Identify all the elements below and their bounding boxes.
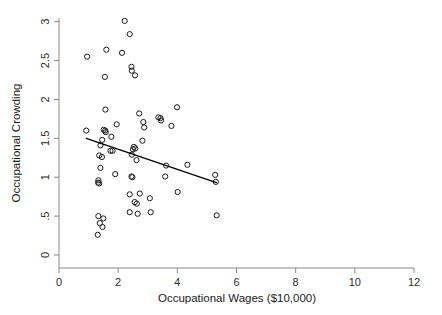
y-tick-label: 2.5 (39, 53, 51, 68)
data-point (214, 213, 219, 218)
x-tick-label: 0 (56, 276, 62, 288)
data-point (109, 134, 114, 139)
x-axis-title: Occupational Wages ($10,000) (158, 292, 316, 304)
y-tick-label: 1.5 (39, 131, 51, 146)
x-axis-tick-labels: 024681012 (56, 276, 420, 288)
y-tick-label: 1 (39, 174, 51, 180)
data-point (114, 122, 119, 127)
data-point (174, 105, 179, 110)
x-tick-label: 12 (408, 276, 420, 288)
data-point (137, 191, 142, 196)
data-point (132, 73, 137, 78)
y-tick-label: 3 (39, 19, 51, 25)
data-point (101, 216, 106, 221)
data-point (148, 210, 153, 215)
data-point (127, 32, 132, 37)
regression-fit-line (86, 138, 216, 182)
data-point (185, 162, 190, 167)
data-point (102, 74, 107, 79)
data-point (134, 158, 139, 163)
data-point (85, 54, 90, 59)
data-point (175, 189, 180, 194)
data-point (137, 111, 142, 116)
data-point (84, 128, 89, 133)
data-point (119, 50, 124, 55)
data-point (142, 125, 147, 130)
data-point (169, 123, 174, 128)
data-point (163, 174, 168, 179)
x-tick-label: 4 (174, 276, 180, 288)
data-point (213, 172, 218, 177)
x-tick-label: 8 (293, 276, 299, 288)
data-point (103, 107, 108, 112)
plot-canvas: 024681012 0.511.522.53 Occupational Wage… (0, 0, 442, 315)
data-point (127, 210, 132, 215)
x-tick-label: 10 (349, 276, 361, 288)
data-point (129, 68, 134, 73)
scatter-plot-figure: 024681012 0.511.522.53 Occupational Wage… (0, 0, 442, 315)
y-axis-tick-group (54, 22, 59, 255)
data-point (127, 192, 132, 197)
data-point (122, 18, 127, 23)
data-point (100, 137, 105, 142)
data-point (140, 138, 145, 143)
data-point-group (84, 18, 220, 237)
y-tick-label: 0 (39, 252, 51, 258)
data-point (104, 47, 109, 52)
data-point (100, 224, 105, 229)
data-point (96, 214, 101, 219)
x-axis-tick-group (59, 268, 414, 273)
data-point (98, 165, 103, 170)
y-tick-label: .5 (39, 212, 51, 221)
y-axis-tick-labels: 0.511.522.53 (39, 19, 51, 258)
y-axis-title: Occupational Crowding (10, 84, 22, 203)
data-point (95, 232, 100, 237)
data-point (113, 172, 118, 177)
y-tick-label: 2 (39, 96, 51, 102)
data-point (141, 119, 146, 124)
data-point (147, 196, 152, 201)
data-point (135, 211, 140, 216)
x-tick-label: 2 (115, 276, 121, 288)
x-tick-label: 6 (233, 276, 239, 288)
